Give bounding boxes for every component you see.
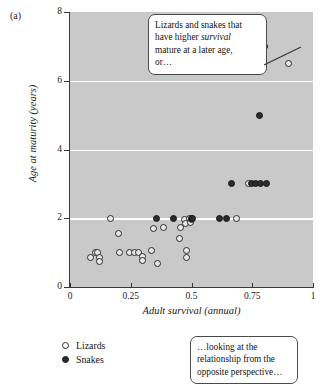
callout-bottom-line-1: …looking at the	[197, 341, 291, 353]
y-tick-mark	[64, 150, 69, 151]
y-tick-label: 6	[40, 75, 62, 85]
figure-panel: (a) 02468 00.250.50.751 Age at maturity …	[0, 0, 328, 386]
y-axis-title: Age at maturity (years)	[27, 49, 38, 219]
callout-top-line-2: have higher survival	[155, 31, 260, 43]
data-point-lizard	[115, 230, 122, 237]
data-point-lizard	[233, 215, 240, 222]
data-point-lizard	[96, 258, 103, 265]
x-axis-title: Adult survival (annual)	[70, 305, 313, 316]
legend-label-snakes: Snakes	[76, 354, 104, 365]
callout-top-line-3: mature at a later age,	[155, 44, 260, 56]
x-tick-mark	[70, 283, 71, 288]
legend-item-snakes: Snakes	[62, 352, 105, 366]
callout-top-line-4: or…	[155, 56, 260, 68]
filled-circle-icon	[62, 356, 69, 363]
data-point-lizard	[160, 224, 167, 231]
y-tick-mark	[64, 287, 69, 288]
data-point-snake	[189, 215, 196, 222]
legend-item-lizards: Lizards	[62, 338, 105, 352]
data-point-lizard	[107, 215, 114, 222]
x-tick-label: 0.5	[172, 291, 212, 301]
x-tick-label: 0.25	[111, 291, 151, 301]
callout-top-line-1: Lizards and snakes that	[155, 19, 260, 31]
x-tick-mark	[313, 283, 314, 288]
y-axis-line	[69, 12, 70, 288]
data-point-snake	[256, 112, 263, 119]
callout-top-emphasis: survival	[201, 32, 231, 42]
data-point-snake	[228, 180, 235, 187]
y-tick-mark	[64, 81, 69, 82]
callout-bottom-line-2: relationship from the	[197, 353, 291, 365]
x-tick-mark	[192, 283, 193, 288]
legend-label-lizards: Lizards	[76, 340, 105, 351]
y-tick-label: 0	[40, 281, 62, 291]
callout-top-line-2-text: have higher	[155, 32, 201, 42]
data-point-snake	[216, 215, 223, 222]
y-tick-label: 4	[40, 144, 62, 154]
data-point-snake	[223, 215, 230, 222]
data-point-snake	[153, 215, 160, 222]
x-tick-label: 0.75	[232, 291, 272, 301]
y-tick-mark	[64, 218, 69, 219]
data-point-lizard	[116, 249, 123, 256]
x-tick-label: 1	[293, 291, 328, 301]
callout-bottom: …looking at the relationship from the op…	[190, 336, 298, 384]
callout-bottom-line-3: opposite perspective…	[197, 366, 291, 378]
data-point-lizard	[150, 225, 157, 232]
data-point-lizard	[148, 247, 155, 254]
data-point-lizard	[183, 254, 190, 261]
data-point-snake	[263, 180, 270, 187]
x-tick-mark	[131, 283, 132, 288]
x-tick-label: 0	[50, 291, 90, 301]
data-point-lizard	[139, 257, 146, 264]
data-point-snake	[170, 215, 177, 222]
x-tick-mark	[252, 283, 253, 288]
y-tick-mark	[64, 12, 69, 13]
y-tick-label: 2	[40, 212, 62, 222]
open-circle-icon	[62, 342, 69, 349]
data-point-lizard	[176, 235, 183, 242]
legend: Lizards Snakes	[62, 338, 105, 366]
data-point-lizard	[285, 60, 292, 67]
data-point-lizard	[154, 260, 161, 267]
callout-top: Lizards and snakes that have higher surv…	[148, 14, 267, 75]
y-tick-label: 8	[40, 6, 62, 16]
gridline-y-6	[70, 81, 313, 83]
gridline-y-4	[70, 150, 313, 152]
panel-label: (a)	[10, 10, 21, 21]
